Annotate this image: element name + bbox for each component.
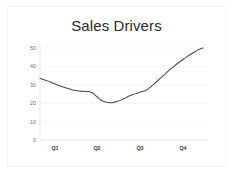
y-tick-label-50: 50 xyxy=(30,45,36,51)
y-tick-label-20: 20 xyxy=(30,100,36,106)
x-tick-label-q4: Q4 xyxy=(179,145,186,151)
x-tick-label-q3: Q3 xyxy=(136,145,143,151)
y-tick-label-0: 0 xyxy=(33,137,36,143)
y-tick-label-30: 30 xyxy=(30,82,36,88)
y-tick-labels: 50 40 30 20 10 0 xyxy=(30,45,36,143)
y-tick-label-10: 10 xyxy=(30,119,36,125)
x-tick-label-q2: Q2 xyxy=(93,145,100,151)
series-line-sales-drivers xyxy=(40,48,203,103)
chart-card: Sales Drivers 50 40 30 20 10 0 Q1 Q2 Q3 … xyxy=(0,0,233,174)
x-tick-label-q1: Q1 xyxy=(51,145,58,151)
line-chart-plot: 50 40 30 20 10 0 Q1 Q2 Q3 Q4 xyxy=(0,0,233,174)
y-tick-label-40: 40 xyxy=(30,63,36,69)
x-tick-labels: Q1 Q2 Q3 Q4 xyxy=(51,145,186,151)
